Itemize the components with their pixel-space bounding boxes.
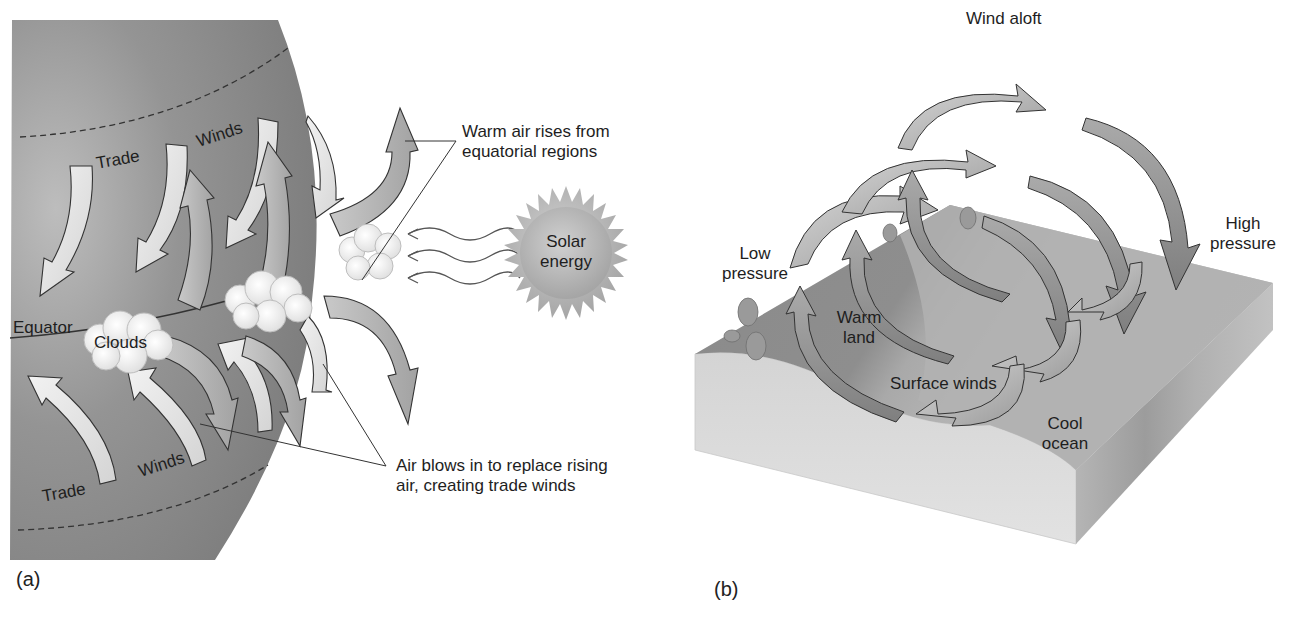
low-line-2: pressure [710,264,800,284]
panel-b-sea-breeze: Wind aloft Low pressure High pressure Wa… [690,0,1292,620]
air-blows-line-1: Air blows in to replace rising [396,456,608,476]
high-line-1: High [1198,214,1288,234]
label-cool-ocean: Cool ocean [1030,414,1100,454]
solar-line-1: Solar [526,232,606,252]
solar-line-2: energy [526,252,606,272]
label-low-pressure: Low pressure [710,244,800,284]
panel-letter-a: (a) [16,568,40,591]
high-line-2: pressure [1198,234,1288,254]
warm-line-2: land [814,328,904,348]
label-clouds: Clouds [94,333,147,353]
cool-line-2: ocean [1030,434,1100,454]
warm-line-1: Warm [814,308,904,328]
callout-air-blows: Air blows in to replace rising air, crea… [396,456,608,496]
panel-letter-b: (b) [714,578,738,601]
panel-a-trade-winds: Trade Winds Equator Clouds Trade Winds S… [0,0,690,620]
sink-arrow-lower [324,296,418,424]
low-line-1: Low [710,244,800,264]
warm-air-line-1: Warm air rises from [462,122,610,142]
label-warm-land: Warm land [814,308,904,348]
label-high-pressure: High pressure [1198,214,1288,254]
label-surface-winds: Surface winds [890,374,997,394]
label-wind-aloft: Wind aloft [966,9,1042,29]
cool-line-1: Cool [1030,414,1100,434]
solar-rays [408,228,520,284]
air-blows-line-2: air, creating trade winds [396,476,608,496]
label-equator: Equator [13,318,73,338]
aloft-arrow-3 [898,84,1046,150]
label-solar-energy: Solar energy [526,232,606,272]
globe-diagram [0,0,690,620]
callout-warm-air: Warm air rises from equatorial regions [462,122,610,162]
land-sea-block-diagram [690,0,1292,620]
warm-air-line-2: equatorial regions [462,142,610,162]
